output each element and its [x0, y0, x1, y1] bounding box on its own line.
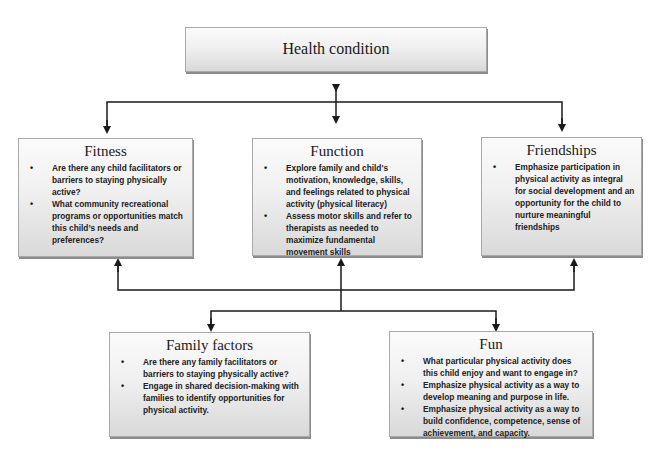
- bullet-item: What particular physical activity does t…: [390, 355, 592, 379]
- bullet-item: Emphasize physical activity as a way to …: [390, 379, 592, 403]
- bullet-item: Explore family and child's motivation, k…: [253, 162, 421, 210]
- bullet-item: Are there any child facilitators or barr…: [19, 162, 192, 198]
- family-factors-title: Family factors: [110, 336, 309, 354]
- fun-box: Fun What particular physical activity do…: [389, 331, 593, 437]
- friendships-box: Friendships Emphasize participation in p…: [481, 137, 642, 256]
- health-condition-box: Health condition: [185, 27, 487, 72]
- fun-title: Fun: [390, 335, 592, 353]
- fitness-bullets: Are there any child facilitators or barr…: [19, 162, 192, 246]
- fitness-box: Fitness Are there any child facilitators…: [18, 138, 193, 257]
- family-factors-box: Family factors Are there any family faci…: [109, 332, 310, 437]
- bullet-item: Emphasize physical activity as a way to …: [390, 403, 592, 439]
- bullet-item: What community recreational programs or …: [19, 198, 192, 246]
- bullet-item: Are there any family facilitators or bar…: [110, 356, 309, 380]
- bullet-item: Emphasize participation in physical acti…: [482, 161, 641, 233]
- function-box: Function Explore family and child's moti…: [252, 138, 422, 256]
- function-title: Function: [253, 142, 421, 160]
- bullet-item: Engage in shared decision-making with fa…: [110, 380, 309, 416]
- bottom-branch-connector: [211, 311, 496, 327]
- bullet-item: Assess motor skills and refer to therapi…: [253, 210, 421, 258]
- fitness-title: Fitness: [19, 142, 192, 160]
- function-bullets: Explore family and child's motivation, k…: [253, 162, 421, 258]
- health-condition-title: Health condition: [186, 40, 486, 58]
- family-factors-bullets: Are there any family facilitators or bar…: [110, 356, 309, 416]
- friendships-bullets: Emphasize participation in physical acti…: [482, 161, 641, 233]
- lower-horizontal-connector: [118, 264, 574, 290]
- fun-bullets: What particular physical activity does t…: [390, 355, 592, 439]
- friendships-title: Friendships: [482, 141, 641, 159]
- top-horizontal-connector: [107, 102, 562, 130]
